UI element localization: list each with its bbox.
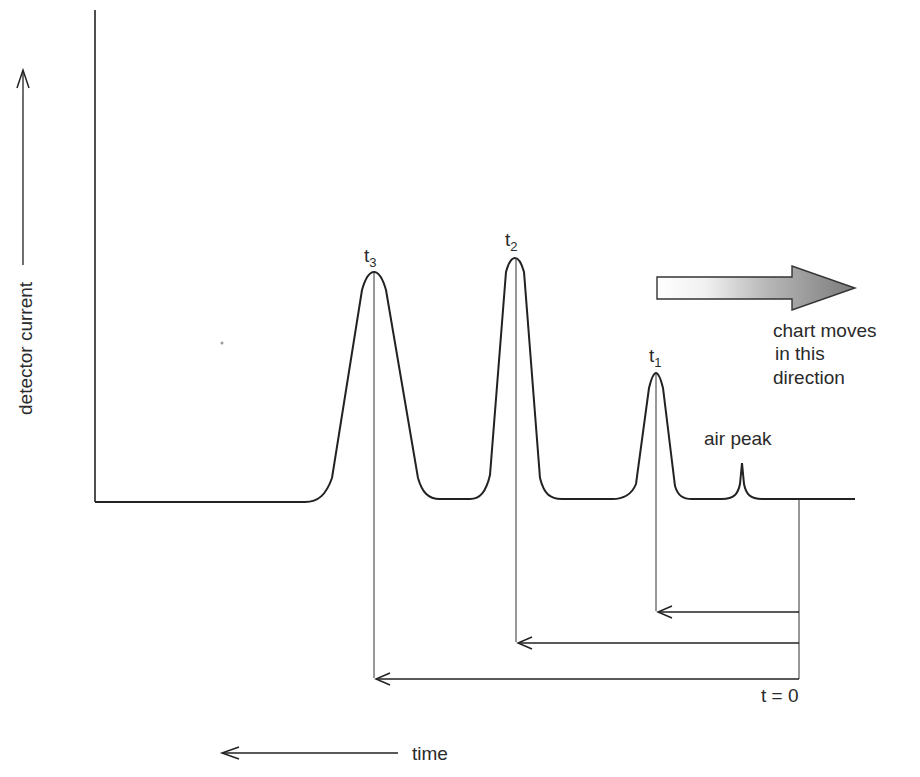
peak-label-t3: t3 bbox=[364, 245, 377, 270]
chromatogram-diagram: detector current t3 t2 t1 air peak chart… bbox=[0, 0, 920, 777]
x-axis-label: time bbox=[412, 743, 448, 764]
paper-speck bbox=[221, 342, 224, 345]
chart-moves-label-line1: chart moves bbox=[773, 320, 876, 341]
chart-moves-label-line3: direction bbox=[773, 367, 845, 388]
retention-arrows bbox=[376, 606, 799, 685]
retention-markers bbox=[374, 258, 799, 679]
y-axis-label: detector current bbox=[15, 281, 36, 415]
t-zero-label: t = 0 bbox=[761, 685, 799, 706]
chart-direction-arrow-icon bbox=[657, 266, 855, 310]
chart-moves-label-line2: in this bbox=[775, 343, 825, 364]
y-axis-label-group: detector current bbox=[15, 70, 36, 415]
air-peak-label: air peak bbox=[704, 428, 772, 449]
peak-label-t2: t2 bbox=[505, 229, 518, 254]
peak-label-t1: t1 bbox=[649, 345, 662, 370]
